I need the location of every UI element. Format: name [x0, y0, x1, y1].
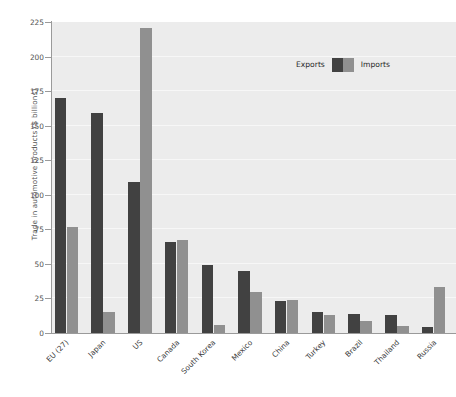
- y-axis-tick-label: 100: [4, 191, 44, 200]
- gridline: [52, 125, 456, 126]
- y-axis-tick-label: 200: [4, 53, 44, 62]
- gridline: [52, 228, 456, 229]
- bar-exports: [91, 113, 103, 333]
- x-axis-line: [51, 333, 456, 334]
- y-axis-tick-label: 0: [4, 329, 44, 338]
- x-axis-label-text: US: [131, 338, 145, 352]
- bar-exports: [165, 242, 177, 333]
- y-axis-tick-label: 175: [4, 87, 44, 96]
- y-axis-line: [51, 21, 52, 334]
- y-axis-tick-label: 125: [4, 156, 44, 165]
- y-axis-tick: [45, 160, 51, 161]
- legend-label-imports: Imports: [361, 61, 390, 69]
- legend-swatch-exports: [332, 58, 343, 72]
- bar-imports: [103, 312, 115, 333]
- bar-imports: [250, 292, 262, 333]
- legend-swatch-imports: [343, 58, 354, 72]
- x-axis-label-text: Brazil: [344, 338, 365, 359]
- x-axis-label-text: Canada: [155, 338, 181, 364]
- y-axis-tick: [45, 195, 51, 196]
- y-axis-tick: [45, 229, 51, 230]
- x-axis-label-text: Turkey: [304, 338, 327, 361]
- legend-swatch: [332, 58, 354, 72]
- y-axis-tick: [45, 264, 51, 265]
- y-axis-tick: [45, 333, 51, 334]
- bar-imports: [67, 227, 79, 333]
- plot-area: [52, 22, 456, 333]
- bar-chart: Trade in automotive products ($ billions…: [0, 0, 456, 397]
- y-axis-tick: [45, 298, 51, 299]
- bar-imports: [177, 240, 189, 333]
- bar-imports: [140, 28, 152, 333]
- bar-exports: [348, 314, 360, 333]
- x-axis-label-text: EU (27): [45, 338, 71, 364]
- y-axis-tick-label: 75: [4, 225, 44, 234]
- x-axis-label-text: South Korea: [180, 338, 218, 376]
- x-axis-label-text: Mexico: [230, 338, 255, 363]
- gridline: [52, 263, 456, 264]
- bar-exports: [55, 98, 67, 333]
- legend-label-exports: Exports: [296, 61, 325, 69]
- y-axis-tick: [45, 22, 51, 23]
- bar-imports: [214, 325, 226, 333]
- x-axis-label-text: Russia: [415, 338, 438, 361]
- bar-imports: [287, 300, 299, 333]
- gridline: [52, 90, 456, 91]
- y-axis-tick-label: 50: [4, 260, 44, 269]
- chart-legend: Exports Imports: [296, 58, 390, 72]
- y-axis-tick: [45, 91, 51, 92]
- gridline: [52, 194, 456, 195]
- x-axis-label-text: Japan: [86, 338, 107, 359]
- bar-imports: [324, 315, 336, 333]
- bar-exports: [385, 315, 397, 333]
- bar-exports: [202, 265, 214, 333]
- bar-exports: [238, 271, 250, 333]
- x-axis-label-text: China: [270, 338, 291, 359]
- gridline: [52, 159, 456, 160]
- y-axis-tick-label: 150: [4, 122, 44, 131]
- y-axis-tick-label: 225: [4, 18, 44, 27]
- bar-exports: [275, 301, 287, 333]
- gridline: [52, 56, 456, 57]
- y-axis-tick-label: 25: [4, 294, 44, 303]
- bar-exports: [128, 182, 140, 333]
- y-axis-tick: [45, 57, 51, 58]
- y-axis-tick: [45, 126, 51, 127]
- bar-imports: [360, 321, 372, 333]
- x-axis-label-text: Thailand: [372, 338, 401, 367]
- bar-exports: [312, 312, 324, 333]
- bar-imports: [397, 326, 409, 333]
- bar-imports: [434, 287, 446, 333]
